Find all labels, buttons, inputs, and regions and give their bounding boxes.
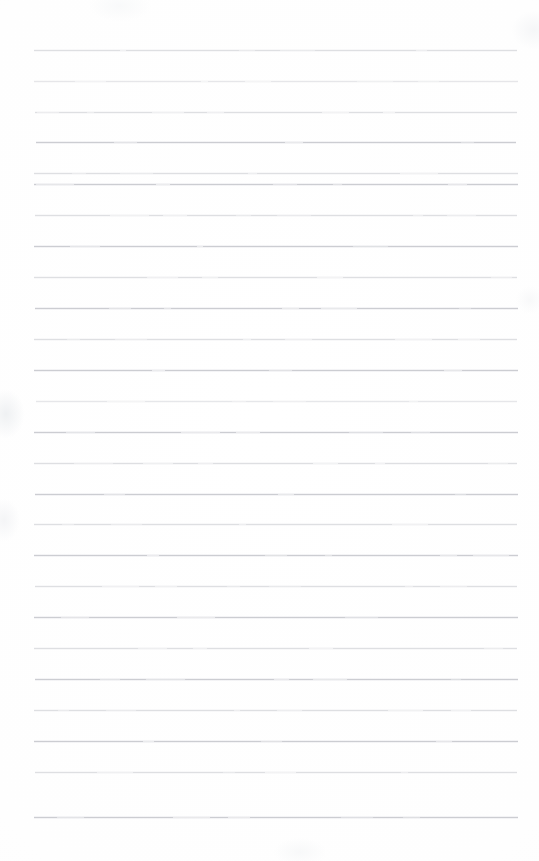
rule-line-break xyxy=(173,817,210,818)
rule-line xyxy=(34,817,518,818)
rule-line-break xyxy=(57,817,84,818)
rule-line-break xyxy=(403,817,420,818)
rule-line-break xyxy=(341,817,373,818)
scanned-page xyxy=(0,0,539,861)
rule-line-break xyxy=(228,817,250,818)
writing-area[interactable] xyxy=(34,50,518,817)
